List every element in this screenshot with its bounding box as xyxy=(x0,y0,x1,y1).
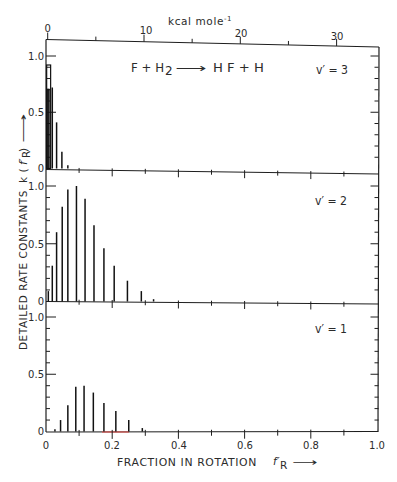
top-kcal-axis-line xyxy=(46,40,379,48)
panel-divider-v2-v1 xyxy=(46,302,379,305)
top-axis-label: kcal mole-1 xyxy=(168,15,232,27)
y-tick-label-v3-1.0: 1.0 xyxy=(28,51,44,62)
panel-bars-3 xyxy=(47,65,68,169)
y-tick-label-v2-0: 0 xyxy=(38,296,44,307)
reaction-reactants: F + H xyxy=(131,61,164,75)
panel-label-v2: v′ = 2 xyxy=(315,194,347,208)
top-tick-label-0: 0 xyxy=(45,23,51,34)
plot-frame xyxy=(46,40,379,433)
x-tick-label-0.6: 0.6 xyxy=(237,440,253,451)
reaction-equation: F + H 2 ⟶ H F + H xyxy=(131,61,264,78)
x-tick-label-0.4: 0.4 xyxy=(171,440,187,451)
y-tick-label-v1-0: 0 xyxy=(38,426,44,437)
y-tick-label-v2-1.0: 1.0 xyxy=(28,181,44,192)
rate-constants-figure: kcal mole-1 0 10 20 30 F + H 2 ⟶ H F + H… xyxy=(0,0,397,482)
x-axis-arrow-icon: ⟶ xyxy=(292,456,318,468)
y-tick-label-v1-0.5: 0.5 xyxy=(28,369,44,380)
x-tick-label-1.0: 1.0 xyxy=(369,440,385,451)
x-axis-title-text: FRACTION IN ROTATION xyxy=(117,456,257,468)
top-tick-label-20: 20 xyxy=(235,28,248,39)
y-tick-label-v2-0.5: 0.5 xyxy=(28,239,44,250)
y-tick-label-v3-0.5: 0.5 xyxy=(28,107,44,118)
top-axis-unit: kcal mole xyxy=(168,15,224,27)
panel-divider-v3-v2 xyxy=(46,170,379,175)
x-tick-label-0: 0 xyxy=(43,440,49,451)
top-tick-label-10: 10 xyxy=(140,25,153,36)
y-tick-label-v1-1.0: 1.0 xyxy=(28,312,44,323)
x-axis-title: FRACTION IN ROTATION f′ R ⟶ xyxy=(117,455,318,471)
rate-bars xyxy=(47,65,154,432)
axis-ticks xyxy=(46,33,379,439)
top-axis-unit-exponent: -1 xyxy=(224,15,232,23)
panel-label-v1: v′ = 1 xyxy=(315,322,347,336)
y-axis-arrow-icon: ⟶ xyxy=(17,113,29,143)
x-tick-label-0.8: 0.8 xyxy=(303,440,319,451)
y-axis-symbol-prefix: k ( xyxy=(17,168,29,183)
panel-label-v3: v′ = 3 xyxy=(316,63,348,77)
y-axis-title-text: DETAILED RATE CONSTANTS xyxy=(17,190,29,350)
y-tick-label-v3-0: 0 xyxy=(38,163,44,174)
x-axis-symbol-subscript: R xyxy=(280,459,288,471)
reaction-arrow-icon: ⟶ xyxy=(175,61,206,75)
top-tick-label-30: 30 xyxy=(331,31,344,42)
reaction-reactant-subscript: 2 xyxy=(165,64,173,78)
panel-bars-2 xyxy=(48,186,153,302)
panel-bars-1 xyxy=(55,386,142,432)
reaction-products: H F + H xyxy=(213,61,264,75)
x-tick-label-0.2: 0.2 xyxy=(104,440,120,451)
y-axis-symbol-suffix: ) xyxy=(17,147,29,152)
